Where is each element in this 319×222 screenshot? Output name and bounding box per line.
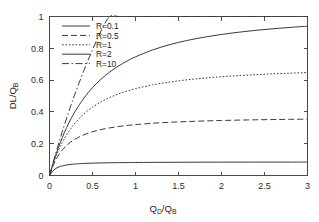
y-tick-label: 0 [38, 171, 43, 181]
x-tick-label: 1 [133, 181, 138, 191]
x-axis-title-main: Q [150, 203, 157, 214]
y-tick-label: 0.2 [31, 139, 44, 149]
x-tick-label: 0 [47, 181, 52, 191]
x-axis-tick-labels: 00.511.522.53 [47, 181, 310, 191]
x-tick-label: 2.5 [258, 181, 271, 191]
x-axis-title-mid: /Q [162, 203, 172, 214]
y-axis-title-main: DL/Q [7, 87, 18, 109]
x-tick-label: 2 [219, 181, 224, 191]
y-tick-label: 0.4 [31, 107, 44, 117]
x-tick-label: 0.5 [86, 181, 99, 191]
y-tick-label: 1 [38, 12, 43, 22]
x-axis-title-sub-b: B [172, 208, 177, 215]
legend-label: R=10 [96, 59, 117, 69]
y-tick-label: 0.6 [31, 75, 44, 85]
y-tick-label: 0.8 [31, 44, 44, 54]
chart-container: 00.511.522.53 00.20.40.60.81 R=0.1R=0.5R… [0, 0, 319, 222]
line-chart: 00.511.522.53 00.20.40.60.81 R=0.1R=0.5R… [0, 0, 319, 222]
x-tick-label: 1.5 [172, 181, 185, 191]
y-axis-title-sub-b: B [12, 82, 19, 87]
x-tick-label: 3 [305, 181, 310, 191]
